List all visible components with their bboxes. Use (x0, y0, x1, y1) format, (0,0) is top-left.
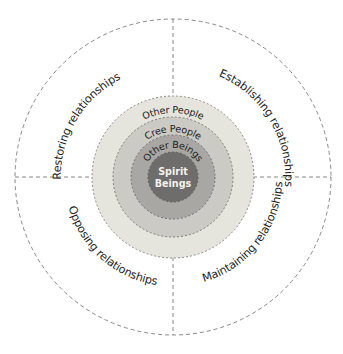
core-spirit-beings (148, 152, 198, 202)
label-beings: Beings (155, 178, 192, 189)
label-spirit: Spirit (158, 166, 188, 177)
relationship-diagram: Restoring relationships Establishing rel… (0, 0, 343, 354)
